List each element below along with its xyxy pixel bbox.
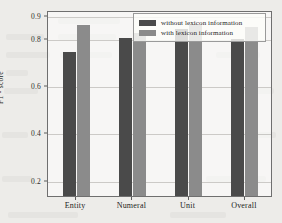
x-tick-mark [131, 197, 132, 200]
bar-chart-figure: F1 - score 0.20.40.60.80.9 EntityNumeral… [0, 0, 282, 223]
x-tick-label: Unit [158, 201, 218, 210]
bar [119, 38, 132, 196]
x-tick-label: Overall [214, 201, 274, 210]
y-tick-label: 0.6 [1, 82, 41, 91]
bar [77, 25, 90, 196]
legend-item: without lexicon information [139, 18, 261, 27]
legend-item: with lexicon information [139, 28, 261, 37]
x-tick-mark [75, 197, 76, 200]
bar [63, 52, 76, 196]
y-tick-label: 0.8 [1, 35, 41, 44]
legend-label: with lexicon information [161, 29, 233, 37]
bar [133, 33, 146, 196]
chart-legend: without lexicon information with lexicon… [133, 13, 266, 42]
bar [245, 27, 258, 196]
legend-label: without lexicon information [161, 19, 242, 27]
x-tick-mark [244, 197, 245, 200]
y-tick-label: 0.9 [1, 11, 41, 20]
bar [175, 29, 188, 196]
x-tick-label: Numeral [101, 201, 161, 210]
x-tick-mark [188, 197, 189, 200]
x-tick-label: Entity [45, 201, 105, 210]
bar [231, 39, 244, 196]
y-tick-label: 0.4 [1, 129, 41, 138]
bar [189, 24, 202, 196]
legend-swatch-icon [139, 30, 156, 36]
y-tick-label: 0.2 [1, 176, 41, 185]
legend-swatch-icon [139, 20, 156, 26]
